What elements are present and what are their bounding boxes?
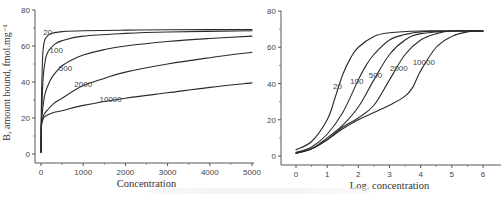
- right-curve-label-100: 100: [350, 77, 364, 86]
- left-curve-label-100: 100: [50, 46, 64, 55]
- left-xtick-label: 4000: [201, 168, 219, 177]
- left-y-axis-title: B, amount bound, fmol.mg⁻¹: [1, 24, 12, 140]
- right-curve-20: [296, 31, 483, 150]
- chart-canvas: 020406080010002000300040005000Concentrat…: [0, 0, 501, 199]
- right-curve-label-500: 500: [369, 71, 383, 80]
- left-xtick-label: 2000: [117, 168, 135, 177]
- right-curve-label-20: 20: [333, 82, 342, 91]
- left-curve-label-2000: 2000: [74, 80, 92, 89]
- right-ytick-label: 40: [267, 80, 276, 89]
- left-xtick-label: 3000: [159, 168, 177, 177]
- right-ytick-label: 80: [267, 7, 276, 16]
- right-xtick-label: 3: [387, 170, 392, 179]
- left-ytick-label: 60: [21, 42, 30, 51]
- right-xtick-label: 5: [450, 170, 455, 179]
- left-curve-label-10000: 10000: [100, 95, 123, 104]
- right-ytick-label: 20: [267, 116, 276, 125]
- right-xtick-label: 1: [325, 170, 330, 179]
- right-xtick-label: 0: [294, 170, 299, 179]
- right-chart-log-concentration: 0204060800123456Log. concentration201005…: [267, 7, 501, 191]
- right-curve-label-2000: 2000: [390, 64, 408, 73]
- left-ytick-label: 20: [21, 114, 30, 123]
- right-xtick-label: 4: [418, 170, 423, 179]
- left-xtick-label: 0: [39, 168, 44, 177]
- right-ytick-label: 60: [267, 43, 276, 52]
- figure: 020406080010002000300040005000Concentrat…: [0, 0, 501, 199]
- left-curve-label-20: 20: [43, 28, 52, 37]
- left-ytick-label: 40: [21, 78, 30, 87]
- right-xtick-label: 6: [481, 170, 486, 179]
- right-curve-500: [296, 31, 483, 154]
- right-curve-label-10000: 10000: [413, 58, 436, 67]
- left-curve-500: [41, 36, 252, 152]
- right-curve-10000: [296, 31, 483, 153]
- figure-caption-faint: [150, 188, 370, 194]
- right-curve-2000: [296, 31, 483, 154]
- left-curve-label-500: 500: [59, 64, 73, 73]
- left-curve-20: [41, 29, 252, 152]
- left-curve-2000: [41, 52, 252, 152]
- right-xtick-label: 2: [356, 170, 361, 179]
- left-chart-concentration: 020406080010002000300040005000Concentrat…: [1, 6, 261, 189]
- left-xtick-label: 1000: [74, 168, 92, 177]
- left-ytick-label: 80: [21, 6, 30, 15]
- left-ytick-label: 0: [26, 150, 31, 159]
- right-ytick-label: 0: [272, 152, 277, 161]
- right-curve-100: [296, 31, 483, 153]
- left-curve-10000: [41, 83, 252, 152]
- left-xtick-label: 5000: [243, 168, 261, 177]
